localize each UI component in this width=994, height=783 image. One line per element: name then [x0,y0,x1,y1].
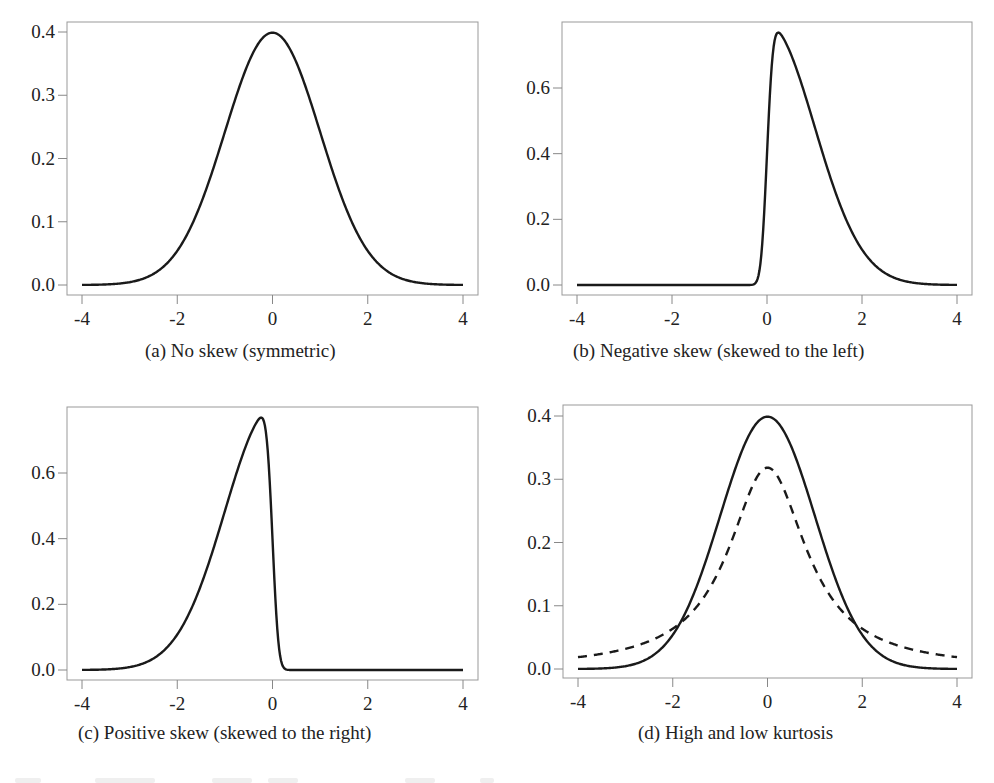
y-tick-label: 0.0 [31,274,55,295]
x-tick-label: 2 [363,693,373,714]
y-tick-label: 0.4 [526,143,550,164]
x-tick-label: 0 [268,693,278,714]
caption-fragment [405,778,435,783]
x-tick-label: -4 [74,693,90,714]
panel-caption-b: (b) Negative skew (skewed to the left) [573,340,864,362]
x-tick-label: 2 [857,308,867,329]
caption-fragment [212,778,252,783]
x-tick-label: -4 [569,308,585,329]
dashed-density-curve [578,468,957,657]
panel-caption-c: (c) Positive skew (skewed to the right) [78,722,371,744]
density-curve [577,33,957,285]
plot-frame [563,405,972,678]
caption-fragment [480,778,494,783]
x-tick-label: -4 [570,691,586,712]
y-tick-label: 0.4 [31,21,55,42]
x-tick-label: -2 [665,691,681,712]
x-tick-label: -2 [169,693,185,714]
y-tick-label: 0.4 [31,528,55,549]
y-tick-label: 0.0 [526,274,550,295]
x-tick-label: 4 [458,308,468,329]
x-tick-label: -2 [169,308,185,329]
density-curve [578,417,957,669]
y-tick-label: 0.6 [526,77,550,98]
plot-panel-c: -4-20240.00.20.40.6 [31,407,478,714]
caption-fragment [15,778,41,783]
y-tick-label: 0.6 [31,462,55,483]
density-curve [82,33,463,285]
x-tick-label: -4 [74,308,90,329]
caption-fragment [268,778,298,783]
y-tick-label: 0.4 [527,405,551,426]
x-tick-label: 0 [762,308,772,329]
x-tick-label: 4 [458,693,468,714]
x-tick-label: 4 [952,308,962,329]
y-tick-label: 0.0 [527,658,551,679]
y-tick-label: 0.2 [526,208,550,229]
plot-panel-b: -4-20240.00.20.40.6 [526,22,972,329]
y-tick-label: 0.2 [31,593,55,614]
y-tick-label: 0.3 [527,468,551,489]
x-tick-label: -2 [664,308,680,329]
figure-canvas: -4-20240.00.10.20.30.4-4-20240.00.20.40.… [0,0,994,783]
caption-fragment [95,778,155,783]
panel-caption-a: (a) No skew (symmetric) [145,340,335,362]
panel-caption-d: (d) High and low kurtosis [638,722,833,744]
plot-panel-a: -4-20240.00.10.20.30.4 [31,21,478,329]
y-tick-label: 0.1 [527,595,551,616]
x-tick-label: 4 [952,691,962,712]
y-tick-label: 0.3 [31,84,55,105]
density-curve [82,418,463,670]
x-tick-label: 2 [858,691,868,712]
x-tick-label: 2 [363,308,373,329]
x-tick-label: 0 [268,308,278,329]
y-tick-label: 0.1 [31,211,55,232]
x-tick-label: 0 [763,691,773,712]
y-tick-label: 0.2 [527,532,551,553]
plot-frame [67,22,478,295]
y-tick-label: 0.2 [31,148,55,169]
plot-panel-d: -4-20240.00.10.20.30.4 [527,405,972,712]
y-tick-label: 0.0 [31,659,55,680]
clipped-figure-caption [0,772,994,783]
